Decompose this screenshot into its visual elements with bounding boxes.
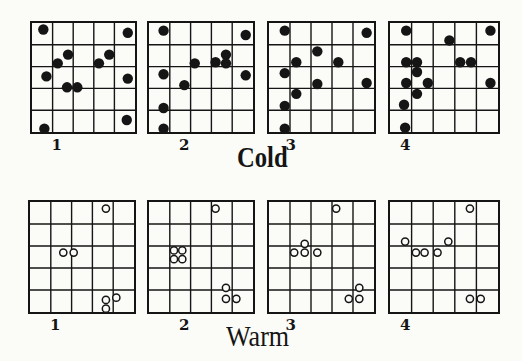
filled-dot-marker bbox=[280, 25, 290, 35]
filled-dot-marker bbox=[444, 35, 454, 45]
filled-dot-marker bbox=[241, 70, 251, 80]
filled-dot-marker bbox=[72, 82, 82, 92]
filled-dot-marker bbox=[455, 57, 465, 67]
panel-number-warm-4: 4 bbox=[400, 316, 410, 334]
panel-number-cold-2: 2 bbox=[179, 136, 189, 154]
filled-dot-marker bbox=[158, 124, 168, 134]
filled-dot-marker bbox=[123, 28, 133, 38]
filled-dot-marker bbox=[158, 103, 168, 113]
open-circle-marker bbox=[412, 249, 419, 256]
open-circle-marker bbox=[477, 295, 484, 302]
open-circle-marker bbox=[60, 249, 67, 256]
open-circle-marker bbox=[102, 305, 109, 312]
open-circle-marker bbox=[356, 284, 363, 291]
filled-dot-marker bbox=[312, 79, 322, 89]
open-circle-marker bbox=[179, 247, 186, 254]
filled-dot-marker bbox=[122, 115, 132, 125]
open-circle-marker bbox=[170, 247, 177, 254]
open-circle-marker bbox=[301, 240, 308, 247]
open-circle-marker bbox=[445, 238, 452, 245]
filled-dot-marker bbox=[401, 25, 411, 35]
filled-dot-marker bbox=[221, 58, 231, 68]
filled-dot-marker bbox=[361, 28, 371, 38]
panel-number-cold-4: 4 bbox=[400, 136, 410, 154]
grid-panel-cold-1 bbox=[30, 21, 137, 134]
panel-number-warm-2: 2 bbox=[179, 316, 189, 334]
open-circle-marker bbox=[466, 205, 473, 212]
filled-dot-marker bbox=[412, 57, 422, 67]
open-circle-marker bbox=[170, 256, 177, 263]
filled-dot-marker bbox=[400, 122, 410, 132]
filled-dot-marker bbox=[401, 78, 411, 88]
grid-panel-cold-4 bbox=[388, 21, 500, 134]
filled-dot-marker bbox=[312, 46, 322, 56]
open-circle-marker bbox=[314, 249, 321, 256]
filled-dot-marker bbox=[179, 80, 189, 90]
filled-dot-marker bbox=[39, 124, 49, 134]
open-circle-marker bbox=[113, 294, 120, 301]
grid-panel-warm-4 bbox=[388, 200, 500, 314]
open-circle-marker bbox=[301, 249, 308, 256]
filled-dot-marker bbox=[241, 30, 251, 40]
filled-dot-marker bbox=[291, 89, 301, 99]
open-circle-marker bbox=[333, 205, 340, 212]
filled-dot-marker bbox=[291, 57, 301, 67]
grid-panel-warm-3 bbox=[267, 200, 376, 314]
open-circle-marker bbox=[233, 295, 240, 302]
filled-dot-marker bbox=[63, 49, 73, 59]
filled-dot-marker bbox=[280, 124, 290, 134]
filled-dot-marker bbox=[41, 71, 51, 81]
grid-panel-cold-3 bbox=[267, 21, 376, 134]
filled-dot-marker bbox=[158, 25, 168, 35]
filled-dot-marker bbox=[412, 89, 422, 99]
filled-dot-marker bbox=[399, 100, 409, 110]
filled-dot-marker bbox=[423, 78, 433, 88]
filled-dot-marker bbox=[123, 73, 133, 83]
grid-panel-warm-2 bbox=[147, 200, 255, 314]
panel-number-cold-1: 1 bbox=[52, 136, 62, 154]
panel-number-warm-1: 1 bbox=[50, 316, 60, 334]
filled-dot-marker bbox=[401, 57, 411, 67]
grid-panel-cold-2 bbox=[147, 21, 255, 134]
open-circle-marker bbox=[102, 205, 109, 212]
filled-dot-marker bbox=[190, 58, 200, 68]
open-circle-marker bbox=[212, 205, 219, 212]
filled-dot-marker bbox=[53, 58, 63, 68]
filled-dot-marker bbox=[38, 24, 48, 34]
row-label-warm: Warm bbox=[226, 320, 289, 353]
filled-dot-marker bbox=[485, 25, 495, 35]
filled-dot-marker bbox=[94, 58, 104, 68]
open-circle-marker bbox=[345, 295, 352, 302]
open-circle-marker bbox=[421, 249, 428, 256]
open-circle-marker bbox=[179, 256, 186, 263]
filled-dot-marker bbox=[210, 57, 220, 67]
filled-dot-marker bbox=[412, 67, 422, 77]
filled-dot-marker bbox=[62, 82, 72, 92]
open-circle-marker bbox=[434, 249, 441, 256]
filled-dot-marker bbox=[158, 69, 168, 79]
open-circle-marker bbox=[291, 249, 298, 256]
filled-dot-marker bbox=[333, 57, 343, 67]
row-label-cold: Cold bbox=[237, 140, 288, 174]
grid-panel-warm-1 bbox=[28, 200, 136, 314]
filled-dot-marker bbox=[485, 78, 495, 88]
open-circle-marker bbox=[466, 295, 473, 302]
open-circle-marker bbox=[402, 238, 409, 245]
filled-dot-marker bbox=[280, 101, 290, 111]
open-circle-marker bbox=[102, 296, 109, 303]
filled-dot-marker bbox=[104, 49, 114, 59]
open-circle-marker bbox=[356, 295, 363, 302]
filled-dot-marker bbox=[280, 68, 290, 78]
filled-dot-marker bbox=[466, 57, 476, 67]
open-circle-marker bbox=[222, 284, 229, 291]
open-circle-marker bbox=[70, 249, 77, 256]
open-circle-marker bbox=[222, 295, 229, 302]
filled-dot-marker bbox=[361, 78, 371, 88]
